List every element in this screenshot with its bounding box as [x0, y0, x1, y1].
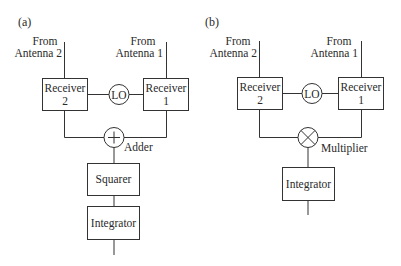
receiver-1-label: Receiver	[146, 82, 187, 94]
adder-label: Adder	[124, 141, 153, 153]
receiver-2-output-line	[65, 111, 105, 138]
receiver-1-number: 1	[163, 95, 169, 107]
integrator-label-a: Integrator	[91, 217, 137, 230]
integrator-label-b: Integrator	[286, 178, 332, 191]
antenna-1-label-name: Antenna 1	[115, 47, 163, 59]
receiver-2-number-b: 2	[257, 94, 263, 106]
receiver-1-output-line	[124, 111, 167, 138]
panel-a-label: (a)	[18, 15, 31, 29]
antenna-1-label-from: From	[131, 35, 156, 47]
receiver-2-label: Receiver	[45, 82, 86, 94]
receiver-1-output-line-b	[318, 110, 362, 138]
receiver-2-number: 2	[62, 95, 68, 107]
panel-b-label: (b)	[205, 15, 219, 29]
antenna-1-label-from-b: From	[327, 35, 352, 47]
multiplier-label: Multiplier	[321, 142, 368, 155]
antenna-2-label-from-b: From	[226, 35, 251, 47]
panel-b-multiplying-interferometer: (b) From Antenna 2 From Antenna 1 Receiv…	[205, 15, 384, 215]
antenna-2-label-from: From	[33, 35, 58, 47]
antenna-2-label-name: Antenna 2	[14, 47, 62, 59]
receiver-2-output-line-b	[260, 110, 299, 138]
panel-a-adding-interferometer: (a) From Antenna 2 From Antenna 1 Receiv…	[14, 15, 188, 255]
squarer-label: Squarer	[96, 173, 132, 186]
local-oscillator-label: LO	[111, 89, 126, 101]
antenna-2-label-name-b: Antenna 2	[209, 47, 257, 59]
receiver-2-label-b: Receiver	[240, 81, 281, 93]
antenna-1-label-name-b: Antenna 1	[310, 47, 358, 59]
receiver-1-label-b: Receiver	[341, 81, 382, 93]
receiver-1-number-b: 1	[358, 94, 364, 106]
local-oscillator-label-b: LO	[304, 88, 319, 100]
interferometer-diagram: (a) From Antenna 2 From Antenna 1 Receiv…	[0, 0, 401, 266]
